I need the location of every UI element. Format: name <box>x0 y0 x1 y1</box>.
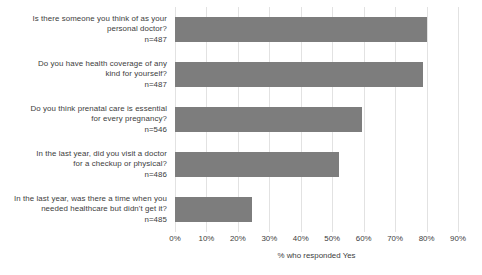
category-label-1: Is there someone you think of as yourper… <box>0 14 167 46</box>
category-question-line-2: for every pregnancy? <box>0 114 167 125</box>
gridline-90pct <box>458 7 459 232</box>
category-question-line-1: In the last year, did you visit a doctor <box>0 149 167 160</box>
category-question-line-1: Do you think prenatal care is essential <box>0 104 167 115</box>
category-question-line-1: In the last year, was there a time when … <box>0 194 167 205</box>
x-tick-label-60pct: 60% <box>356 233 372 245</box>
category-sample-size: n=486 <box>0 170 167 181</box>
bar-series <box>175 7 458 232</box>
bar-2 <box>175 62 423 87</box>
category-label-5: In the last year, was there a time when … <box>0 194 167 226</box>
category-sample-size: n=487 <box>0 80 167 91</box>
x-axis-title: % who responded Yes <box>175 250 458 262</box>
x-tick-label-30pct: 30% <box>261 233 277 245</box>
category-axis-labels: Is there someone you think of as yourper… <box>0 0 171 232</box>
category-label-3: Do you think prenatal care is essentialf… <box>0 104 167 136</box>
category-question-line-1: Do you have health coverage of any <box>0 59 167 70</box>
x-tick-label-10pct: 10% <box>199 233 215 245</box>
x-tick-label-50pct: 50% <box>324 233 340 245</box>
category-question-line-1: Is there someone you think of as your <box>0 14 167 25</box>
category-question-line-2: personal doctor? <box>0 24 167 35</box>
category-label-2: Do you have health coverage of anykind f… <box>0 59 167 91</box>
x-tick-label-20pct: 20% <box>230 233 246 245</box>
category-question-line-2: kind for yourself? <box>0 69 167 80</box>
x-tick-label-0pct: 0% <box>169 233 180 245</box>
bar-3 <box>175 107 362 132</box>
x-axis-ticks: 0%10%20%30%40%50%60%70%80%90% <box>175 233 458 249</box>
category-sample-size: n=487 <box>0 35 167 46</box>
bar-5 <box>175 197 252 222</box>
bar-4 <box>175 152 339 177</box>
bar-1 <box>175 17 427 42</box>
plot-area <box>175 7 458 232</box>
category-label-4: In the last year, did you visit a doctor… <box>0 149 167 181</box>
horizontal-bar-chart: Is there someone you think of as yourper… <box>0 0 482 275</box>
x-tick-label-70pct: 70% <box>387 233 403 245</box>
category-question-line-2: for a checkup or physical? <box>0 159 167 170</box>
category-sample-size: n=546 <box>0 125 167 136</box>
category-question-line-2: needed healthcare but didn't get it? <box>0 204 167 215</box>
x-tick-label-90pct: 90% <box>450 233 466 245</box>
x-tick-label-80pct: 80% <box>419 233 435 245</box>
x-tick-label-40pct: 40% <box>293 233 309 245</box>
category-sample-size: n=485 <box>0 215 167 226</box>
